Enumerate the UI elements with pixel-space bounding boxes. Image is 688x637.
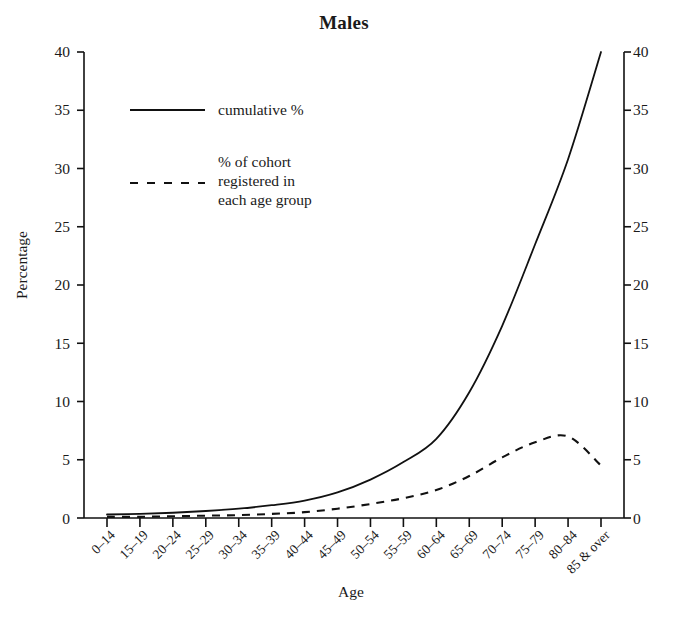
legend-marks-group	[130, 110, 205, 183]
series-line-cumulative	[107, 52, 601, 515]
series-line-cohort	[107, 435, 601, 517]
axes-group	[77, 52, 631, 527]
plot-area	[0, 0, 688, 637]
chart-figure: Males Percentage Age 40 35 30 25 20 15 1…	[0, 0, 688, 637]
